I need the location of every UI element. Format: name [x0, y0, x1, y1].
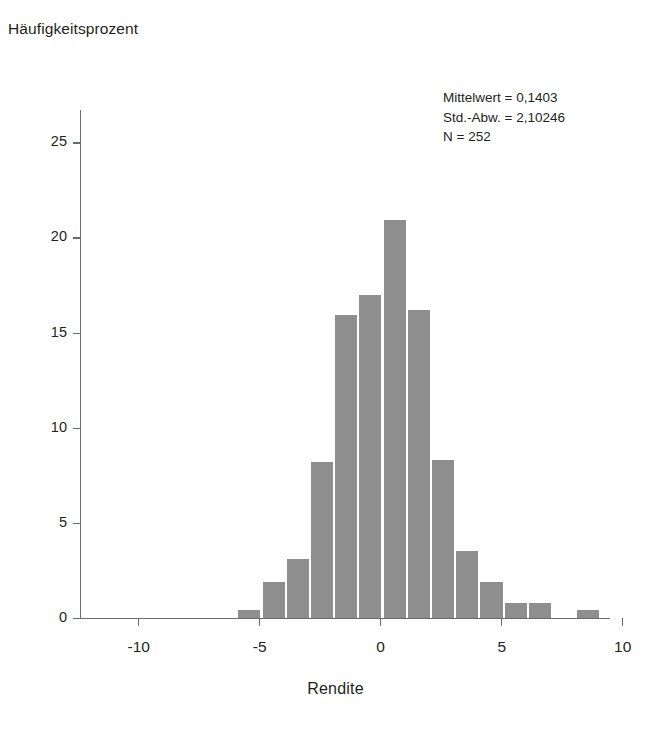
- x-tick-label: 0: [376, 638, 385, 656]
- x-tick-label: -5: [253, 638, 267, 656]
- plot-area: 0510152025 -10-50510: [80, 110, 610, 618]
- x-tick-label: 10: [614, 638, 631, 656]
- x-tick-label: -10: [127, 638, 149, 656]
- histogram-bar: [576, 610, 600, 618]
- y-tick-label: 25: [51, 133, 67, 149]
- y-tick-label: 5: [59, 514, 67, 530]
- histogram-bar: [431, 460, 455, 618]
- y-tick-label: 15: [51, 324, 67, 340]
- histogram-bar: [310, 462, 334, 618]
- y-tick-15: 15: [73, 333, 80, 334]
- x-tick-5: 5: [501, 618, 502, 626]
- x-tick--10: -10: [138, 618, 139, 626]
- histogram-bar: [455, 551, 479, 618]
- histogram-bar: [383, 220, 407, 618]
- y-tick-label: 20: [51, 228, 67, 244]
- y-tick-10: 10: [73, 428, 80, 429]
- y-tick-25: 25: [73, 142, 80, 143]
- x-axis-line: [80, 618, 610, 619]
- histogram-bar: [286, 559, 310, 618]
- histogram-bar: [479, 582, 503, 618]
- x-tick--5: -5: [259, 618, 260, 626]
- x-tick-0: 0: [380, 618, 381, 626]
- y-tick-0: 0: [73, 618, 80, 619]
- histogram-bar: [262, 582, 286, 618]
- x-tick-label: 5: [497, 638, 506, 656]
- histogram-bar: [358, 295, 382, 618]
- y-tick-label: 10: [51, 419, 67, 435]
- y-tick-5: 5: [73, 523, 80, 524]
- x-tick-10: 10: [622, 618, 623, 626]
- y-axis-title: Häufigkeitsprozent: [8, 20, 138, 38]
- y-tick-20: 20: [73, 237, 80, 238]
- histogram-bar: [334, 315, 358, 618]
- y-tick-label: 0: [59, 609, 67, 625]
- x-axis-title: Rendite: [0, 680, 671, 698]
- histogram-bar: [237, 610, 261, 618]
- histogram-bar: [504, 603, 528, 618]
- histogram-bar: [407, 310, 431, 618]
- y-axis-line: [80, 110, 81, 618]
- histogram-bar: [528, 603, 552, 618]
- histogram-chart: Häufigkeitsprozent Mittelwert = 0,1403 S…: [0, 0, 671, 731]
- stat-mean: Mittelwert = 0,1403: [443, 88, 565, 108]
